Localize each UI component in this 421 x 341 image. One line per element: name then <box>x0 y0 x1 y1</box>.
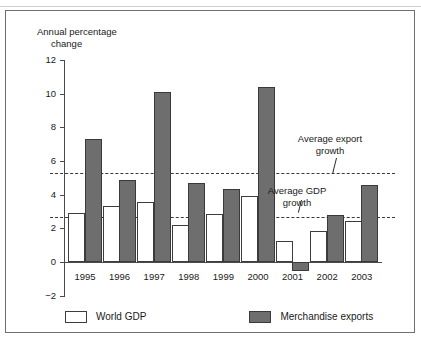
y-tick-mark <box>60 228 65 229</box>
y-tick-label: 12 <box>34 55 56 65</box>
annotation-average-gdp-growth: Average GDP growth <box>268 185 326 209</box>
bar-exports-1996 <box>119 180 136 262</box>
bar-gdp-1999 <box>206 214 223 262</box>
legend-label-merchandise-exports: Merchandise exports <box>280 312 373 322</box>
reference-line-average-export-growth <box>50 173 395 174</box>
annotation-gdp-line-1: Average GDP <box>268 185 326 197</box>
bar-gdp-2000 <box>241 196 258 262</box>
white-square-swatch-icon <box>65 311 87 323</box>
y-axis-line <box>64 60 65 296</box>
bar-exports-1999 <box>223 189 240 262</box>
bar-exports-1997 <box>154 92 171 262</box>
annotation-export-line-1: Average export <box>298 133 362 145</box>
annotation-gdp-line-2: growth <box>268 197 326 209</box>
x-axis-line <box>64 262 382 263</box>
legend-item-world-gdp: World GDP <box>65 311 146 323</box>
y-axis-title: Annual percentage change <box>37 26 187 50</box>
page-crop-rule <box>0 6 421 7</box>
bar-gdp-1997 <box>137 202 154 262</box>
y-tick-label: 8 <box>34 122 56 132</box>
bar-gdp-2003 <box>345 221 362 262</box>
y-tick-label: 0 <box>34 257 56 267</box>
annotation-export-line-2: growth <box>298 145 362 157</box>
chart-legend: World GDP Merchandise exports <box>5 305 415 329</box>
bar-exports-1995 <box>85 139 102 262</box>
bar-exports-1998 <box>188 183 205 262</box>
gray-square-swatch-icon <box>249 311 271 323</box>
y-tick-label: −2 <box>34 291 56 301</box>
y-tick-mark <box>60 195 65 196</box>
y-tick-mark <box>60 296 65 297</box>
bar-gdp-2002 <box>310 231 327 262</box>
chart-figure: Annual percentage change 121086420−2 199… <box>0 0 421 341</box>
y-axis-title-line-2: change <box>37 38 187 50</box>
legend-item-merchandise-exports: Merchandise exports <box>249 311 373 323</box>
y-tick-label: 10 <box>34 89 56 99</box>
annotation-average-export-growth: Average export growth <box>298 133 362 157</box>
legend-label-world-gdp: World GDP <box>96 312 146 322</box>
y-axis-title-line-1: Annual percentage <box>37 26 187 38</box>
plot-area: 121086420−2 1995199619971998199920002001… <box>64 60 382 296</box>
y-tick-mark <box>60 94 65 95</box>
y-tick-mark <box>60 127 65 128</box>
bar-exports-2000 <box>258 87 275 262</box>
y-tick-label: 6 <box>34 156 56 166</box>
bar-gdp-1995 <box>68 213 85 262</box>
y-tick-label: 2 <box>34 223 56 233</box>
y-tick-label: 4 <box>34 190 56 200</box>
bar-gdp-2001 <box>276 241 293 262</box>
bar-gdp-1998 <box>172 225 189 262</box>
y-tick-mark <box>60 161 65 162</box>
bar-gdp-1996 <box>103 206 120 262</box>
y-tick-mark <box>60 262 65 263</box>
bar-exports-2003 <box>361 185 378 262</box>
bar-exports-2001 <box>292 262 309 271</box>
y-tick-mark <box>60 60 65 61</box>
x-tick-label-2003: 2003 <box>342 272 382 282</box>
bar-exports-2002 <box>327 215 344 262</box>
